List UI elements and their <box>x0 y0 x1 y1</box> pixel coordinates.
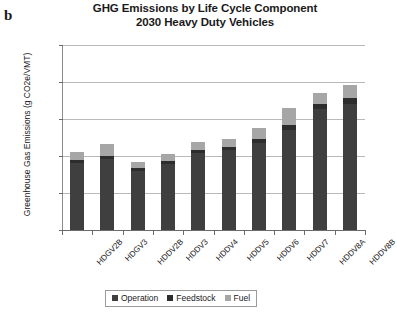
bar-segment-operation <box>70 163 84 230</box>
x-tick-label-hddv8b: HDDV8B <box>368 238 397 267</box>
y-tick-mark <box>59 82 63 83</box>
legend-label: Feedstock <box>176 293 215 303</box>
bar-segment-fuel <box>222 139 236 146</box>
y-tick-mark <box>59 193 63 194</box>
bar-segment-feedstock <box>313 104 327 110</box>
x-tick-label-hdgv2b: HDGV2B <box>96 238 125 267</box>
bar-segment-feedstock <box>191 150 205 153</box>
bar-segment-operation <box>161 164 175 230</box>
bar-segment-feedstock <box>70 160 84 163</box>
x-tick-mark <box>365 231 366 235</box>
bar-segment-fuel <box>313 93 327 104</box>
chart-title: GHG Emissions by Life Cycle Component 20… <box>40 2 370 29</box>
x-tick-label-hddv7: HDDV7 <box>306 238 331 263</box>
legend-item-fuel: Fuel <box>225 293 251 303</box>
bar-segment-fuel <box>161 154 175 161</box>
bar-segment-feedstock <box>343 98 357 104</box>
x-tick-mark <box>153 231 154 235</box>
legend-label: Fuel <box>234 293 251 303</box>
bar-segment-operation <box>252 143 266 230</box>
bar-segment-fuel <box>131 162 145 168</box>
y-tick-mark <box>59 45 63 46</box>
x-tick-label-hddv8a: HDDV8A <box>338 238 367 267</box>
bar-hdgv3 <box>100 144 114 230</box>
bar-segment-fuel <box>191 142 205 150</box>
gridline <box>62 82 365 83</box>
x-tick-mark <box>244 231 245 235</box>
x-tick-mark <box>214 231 215 235</box>
chart-title-line-1: GHG Emissions by Life Cycle Component <box>40 2 370 16</box>
chart-legend: OperationFeedstockFuel <box>105 290 257 307</box>
bar-hddv6 <box>252 128 266 230</box>
bar-hddv5 <box>222 139 236 230</box>
bar-segment-fuel <box>70 152 84 161</box>
bar-segment-feedstock <box>161 161 175 164</box>
x-tick-mark <box>123 231 124 235</box>
gridline <box>62 45 365 46</box>
bar-segment-operation <box>191 153 205 230</box>
x-tick-mark <box>304 231 305 235</box>
legend-item-operation: Operation <box>112 293 158 303</box>
plot-area <box>62 45 365 230</box>
legend-swatch-fuel <box>225 295 231 301</box>
bar-segment-operation <box>282 130 296 230</box>
x-tick-mark <box>92 231 93 235</box>
x-tick-label-hddv3: HDDV3 <box>185 238 210 263</box>
x-tick-mark <box>62 231 63 235</box>
bar-segment-operation <box>222 150 236 230</box>
y-axis-title: Greenhouse Gas Emissions (g CO2e/VMT) <box>23 35 32 235</box>
bar-hdgv2b <box>70 152 84 230</box>
bar-segment-operation <box>100 159 114 230</box>
y-tick-mark <box>59 119 63 120</box>
x-tick-mark <box>335 231 336 235</box>
legend-item-feedstock: Feedstock <box>167 293 215 303</box>
bar-hddv4 <box>191 142 205 230</box>
x-tick-mark <box>274 231 275 235</box>
bar-segment-operation <box>313 109 327 230</box>
bar-segment-fuel <box>343 85 357 98</box>
bar-hddv2b <box>131 162 145 230</box>
bar-segment-feedstock <box>222 147 236 151</box>
bar-segment-operation <box>343 104 357 230</box>
bar-segment-feedstock <box>100 156 114 159</box>
y-tick-mark <box>59 156 63 157</box>
bar-segment-fuel <box>282 108 296 125</box>
legend-swatch-operation <box>112 295 118 301</box>
bar-segment-operation <box>131 171 145 230</box>
bar-segment-feedstock <box>282 125 296 130</box>
bar-segment-fuel <box>100 144 114 156</box>
bar-segment-feedstock <box>131 168 145 171</box>
bar-hddv7 <box>282 108 296 230</box>
x-tick-label-hddv4: HDDV4 <box>215 238 240 263</box>
bar-hddv3 <box>161 154 175 230</box>
panel-letter: b <box>4 8 12 23</box>
x-tick-label-hddv5: HDDV5 <box>246 238 271 263</box>
x-tick-label-hdgv3: HDGV3 <box>125 238 151 264</box>
x-tick-mark <box>183 231 184 235</box>
legend-label: Operation <box>121 293 158 303</box>
chart-title-line-2: 2030 Heavy Duty Vehicles <box>40 16 370 30</box>
bar-segment-fuel <box>252 128 266 138</box>
legend-swatch-feedstock <box>167 295 173 301</box>
bar-hddv8b <box>343 85 357 230</box>
x-tick-label-hddv2b: HDDV2B <box>156 238 185 267</box>
bar-hddv8a <box>313 93 327 230</box>
bar-segment-feedstock <box>252 139 266 143</box>
x-tick-label-hddv6: HDDV6 <box>276 238 301 263</box>
